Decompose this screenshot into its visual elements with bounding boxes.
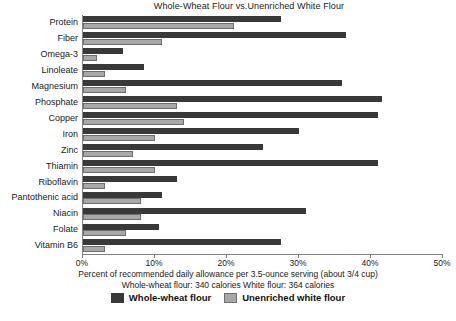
- bar-row: [83, 79, 443, 95]
- bar-chart: Whole-Wheat Flour vs.Unenriched White Fl…: [0, 0, 456, 321]
- bar-white-flour: [83, 230, 126, 236]
- y-axis-label-iron: Iron: [0, 129, 78, 139]
- bar-whole-wheat: [83, 224, 159, 230]
- bar-white-flour: [83, 151, 133, 157]
- legend-label: Unenriched white flour: [242, 292, 345, 303]
- bar-whole-wheat: [83, 144, 263, 150]
- bar-row: [83, 206, 443, 222]
- bar-row: [83, 63, 443, 79]
- y-axis-label-zinc: Zinc: [0, 145, 78, 155]
- bar-white-flour: [83, 198, 141, 204]
- bar-whole-wheat: [83, 160, 378, 166]
- x-tick-label: 30%: [278, 258, 318, 268]
- bar-row: [83, 95, 443, 111]
- bar-whole-wheat: [83, 16, 281, 22]
- legend-label: Whole-wheat flour: [129, 292, 211, 303]
- x-tick-label: 0%: [62, 258, 102, 268]
- x-axis-caption: Percent of recommended daily allowance p…: [0, 269, 456, 279]
- bar-white-flour: [83, 39, 162, 45]
- bar-whole-wheat: [83, 192, 162, 198]
- y-axis-label-thiamin: Thiamin: [0, 161, 78, 171]
- bar-row: [83, 174, 443, 190]
- x-tick-label: 20%: [206, 258, 246, 268]
- x-tick-label: 10%: [134, 258, 174, 268]
- y-axis-label-fiber: Fiber: [0, 33, 78, 43]
- bar-white-flour: [83, 183, 105, 189]
- bar-whole-wheat: [83, 176, 177, 182]
- bar-row: [83, 190, 443, 206]
- bar-white-flour: [83, 246, 105, 252]
- y-axis-label-folate: Folate: [0, 224, 78, 234]
- y-axis-label-pantothenic-acid: Pantothenic acid: [0, 192, 78, 202]
- bar-white-flour: [83, 214, 141, 220]
- legend-item: Unenriched white flour: [224, 292, 345, 303]
- x-tick-label: 50%: [422, 258, 456, 268]
- bar-row: [83, 15, 443, 31]
- bar-whole-wheat: [83, 96, 382, 102]
- chart-title-text: Whole-Wheat Flour vs.Unenriched White Fl…: [154, 1, 344, 11]
- bar-row: [83, 47, 443, 63]
- bar-whole-wheat: [83, 208, 306, 214]
- bar-row: [83, 31, 443, 47]
- plot-area: [82, 15, 443, 255]
- bar-whole-wheat: [83, 48, 123, 54]
- bar-whole-wheat: [83, 112, 378, 118]
- bar-row: [83, 142, 443, 158]
- bar-row: [83, 222, 443, 238]
- calories-caption: Whole-wheat flour: 340 calories White fl…: [0, 280, 456, 290]
- bar-whole-wheat: [83, 64, 144, 70]
- chart-title: Whole-Wheat Flour vs.Unenriched White Fl…: [0, 1, 456, 11]
- y-axis-label-copper: Copper: [0, 113, 78, 123]
- bar-row: [83, 111, 443, 127]
- bar-row: [83, 158, 443, 174]
- bar-white-flour: [83, 167, 155, 173]
- bar-whole-wheat: [83, 32, 346, 38]
- y-axis-label-vitamin-b6: Vitamin B6: [0, 240, 78, 250]
- bar-white-flour: [83, 71, 105, 77]
- y-axis-label-niacin: Niacin: [0, 208, 78, 218]
- bar-white-flour: [83, 23, 234, 29]
- y-axis-label-phosphate: Phosphate: [0, 97, 78, 107]
- y-axis-label-linoleate: Linoleate: [0, 65, 78, 75]
- y-axis-label-riboflavin: Riboflavin: [0, 177, 78, 187]
- bar-whole-wheat: [83, 239, 281, 245]
- legend-item: Whole-wheat flour: [111, 292, 211, 303]
- bar-white-flour: [83, 87, 126, 93]
- bar-row: [83, 238, 443, 254]
- chart-legend: Whole-wheat flourUnenriched white flour: [0, 292, 456, 303]
- bar-whole-wheat: [83, 128, 299, 134]
- y-axis-category-labels: ProteinFiberOmega-3LinoleateMagnesiumPho…: [0, 15, 78, 254]
- x-tick-label: 40%: [350, 258, 390, 268]
- bar-rows: [83, 15, 443, 254]
- bar-white-flour: [83, 119, 184, 125]
- bar-white-flour: [83, 135, 155, 141]
- bar-white-flour: [83, 55, 97, 61]
- y-axis-label-omega-3: Omega-3: [0, 49, 78, 59]
- y-axis-label-protein: Protein: [0, 17, 78, 27]
- legend-swatch-light: [224, 293, 237, 303]
- bar-row: [83, 127, 443, 143]
- legend-swatch-dark: [111, 293, 124, 303]
- bar-white-flour: [83, 103, 177, 109]
- bar-whole-wheat: [83, 80, 342, 86]
- y-axis-label-magnesium: Magnesium: [0, 81, 78, 91]
